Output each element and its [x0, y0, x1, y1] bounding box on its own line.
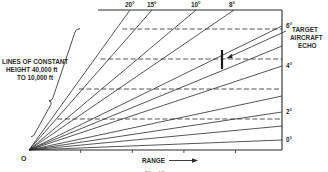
range-axis-label: RANGE — [142, 157, 166, 164]
elevation-label-2deg: 2° — [286, 108, 293, 115]
range-height-diagram: 0°2°4°6°8°10°15°20° O RANGE Fig. 10 LINE… — [0, 0, 328, 172]
elevation-line-8deg — [29, 10, 234, 150]
constant-height-label-line2: HEIGHT 40,000 ft — [6, 66, 58, 74]
elevation-lines — [29, 10, 282, 150]
constant-height-label-line1: LINES OF CONSTANT — [2, 58, 68, 65]
elevation-label-20deg: 20° — [125, 1, 135, 8]
elevation-label-0deg: 0° — [286, 136, 293, 143]
elevation-line-1deg — [29, 126, 282, 150]
target-label-line1: TARGET — [292, 26, 318, 33]
constant-height-label-line3: TO 10,000 ft — [17, 74, 54, 82]
origin-label: O — [21, 155, 27, 162]
elevation-label-4deg: 4° — [286, 62, 293, 69]
elevation-labels: 0°2°4°6°8°10°15°20° — [125, 1, 293, 143]
elevation-label-15deg: 15° — [147, 1, 157, 8]
elevation-line-4deg — [29, 66, 282, 150]
target-label-line3: ECHO — [298, 42, 316, 49]
target-pointer-arrow-icon — [226, 31, 286, 59]
target-label-line2: AIRCRAFT — [290, 34, 323, 41]
frame — [29, 10, 282, 150]
figure-caption: Fig. 10 — [145, 169, 165, 172]
right-arrow-icon — [169, 158, 198, 162]
elevation-label-8deg: 8° — [229, 1, 236, 8]
elevation-label-10deg: 10° — [191, 1, 201, 8]
